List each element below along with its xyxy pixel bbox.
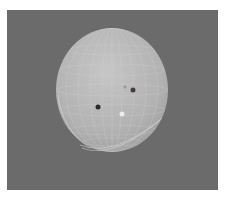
marker-dark-point xyxy=(96,105,101,110)
sphere-render xyxy=(0,0,225,197)
marker-brown-point xyxy=(131,88,136,93)
marker-white-point xyxy=(120,112,125,117)
marker-faint-point xyxy=(124,86,127,89)
